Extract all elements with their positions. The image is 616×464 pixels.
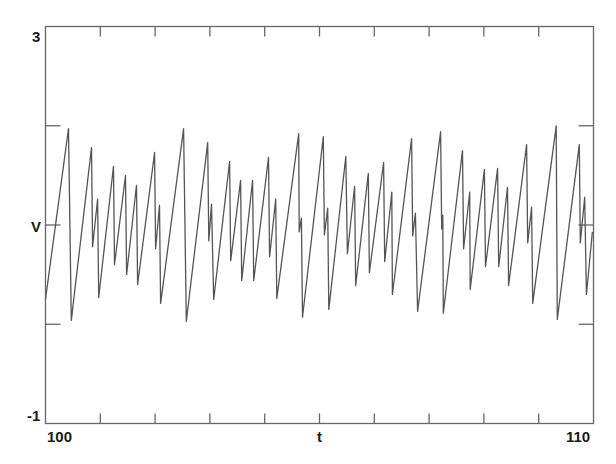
- plot-frame: [46, 27, 594, 424]
- axis-ticks: [46, 27, 594, 424]
- x-tick-label-left: 100: [47, 429, 72, 444]
- y-tick-label-top: 3: [32, 29, 40, 44]
- y-axis-label: V: [31, 219, 41, 234]
- chart-plot: [0, 0, 616, 464]
- y-tick-label-bottom: -1: [27, 408, 40, 423]
- voltage-trace: [46, 126, 593, 321]
- x-axis-label: t: [317, 429, 322, 444]
- x-tick-label-right: 110: [566, 429, 590, 444]
